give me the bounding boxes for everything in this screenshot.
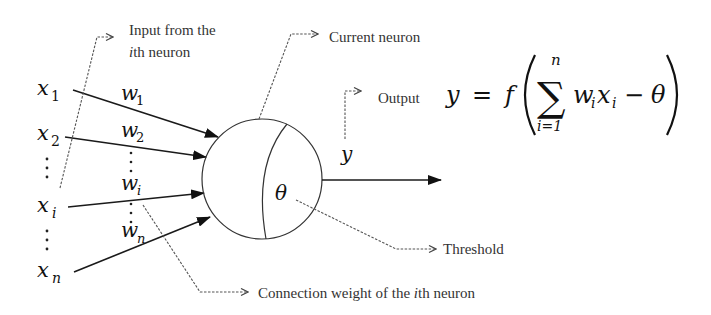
input-arrow-i bbox=[68, 193, 204, 207]
input-xi: x i bbox=[37, 193, 56, 221]
formula-sum-upper: n bbox=[551, 51, 561, 69]
svg-text:w: w bbox=[121, 171, 138, 195]
svg-text:2: 2 bbox=[51, 133, 60, 149]
formula-term-x-sub: i bbox=[612, 95, 616, 111]
formula-theta: θ bbox=[651, 81, 666, 109]
svg-text:n: n bbox=[52, 270, 61, 286]
svg-text:x: x bbox=[37, 121, 49, 145]
svg-text:w: w bbox=[121, 218, 138, 242]
output-symbol: y bbox=[340, 142, 353, 166]
input-annotation-line2: ith neuron bbox=[129, 44, 191, 60]
output-formula: y = f n ∑ i=1 w i x i − θ bbox=[445, 51, 677, 135]
input-xn: x n bbox=[37, 258, 61, 286]
svg-text:x: x bbox=[37, 76, 49, 100]
svg-text:i: i bbox=[52, 205, 56, 221]
connection-weight-label: Connection weight of the ith neuron bbox=[258, 285, 476, 301]
threshold-pointer bbox=[296, 200, 436, 249]
formula-equals: = bbox=[472, 81, 492, 109]
weight-w2: w 2 bbox=[121, 118, 144, 145]
weight-wi: w i bbox=[121, 171, 141, 198]
svg-text:2: 2 bbox=[136, 130, 144, 145]
threshold-symbol: θ bbox=[275, 181, 287, 205]
input-ellipsis-upper bbox=[46, 158, 49, 179]
svg-text:x: x bbox=[37, 193, 49, 217]
connection-weight-prefix: Connection weight of the bbox=[258, 285, 414, 301]
formula-left-paren bbox=[525, 55, 535, 135]
svg-text:1: 1 bbox=[51, 88, 60, 104]
formula-right-paren bbox=[667, 55, 677, 135]
formula-minus: − bbox=[624, 81, 644, 109]
connection-weight-suffix: th neuron bbox=[418, 285, 476, 301]
svg-text:i: i bbox=[137, 183, 141, 198]
threshold-label: Threshold bbox=[443, 241, 504, 257]
input-x1: x 1 bbox=[37, 76, 60, 104]
neuron-circle bbox=[202, 119, 322, 239]
input-annotation-rest: th neuron bbox=[133, 44, 191, 60]
current-neuron-label: Current neuron bbox=[329, 29, 421, 45]
input-x2: x 2 bbox=[37, 121, 60, 149]
formula-func: f bbox=[503, 81, 518, 109]
formula-term-w-sub: i bbox=[591, 95, 595, 111]
input-arrow-1 bbox=[73, 90, 218, 137]
svg-text:x: x bbox=[37, 258, 49, 282]
input-annotation-line1: Input from the bbox=[129, 22, 216, 38]
connection-weight-pointer bbox=[143, 205, 248, 292]
formula-sum-symbol: ∑ bbox=[537, 74, 566, 120]
weight-ellipsis-upper bbox=[130, 152, 133, 173]
formula-term-x: x bbox=[597, 81, 611, 109]
output-pointer bbox=[345, 91, 361, 139]
current-neuron-pointer bbox=[259, 34, 318, 119]
weight-wn: w n bbox=[121, 218, 145, 246]
formula-lhs: y bbox=[445, 81, 460, 109]
input-ellipsis-lower bbox=[46, 230, 49, 251]
output-label: Output bbox=[378, 90, 421, 106]
neuron-diagram: x 1 x 2 x i x n w 1 w 2 w i bbox=[0, 0, 711, 315]
svg-text:1: 1 bbox=[136, 93, 144, 108]
formula-sum-lower: i=1 bbox=[537, 118, 562, 134]
weight-w1: w 1 bbox=[121, 81, 144, 108]
input-annotation-pointer bbox=[60, 37, 113, 188]
svg-text:n: n bbox=[137, 231, 145, 246]
